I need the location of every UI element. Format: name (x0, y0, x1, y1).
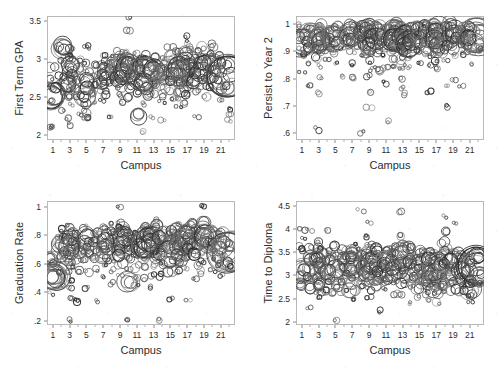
x-axis-label: Campus (296, 159, 484, 171)
x-tick-mark (461, 325, 462, 327)
x-tick-mark (61, 140, 62, 142)
x-tick-label: 5 (333, 330, 338, 340)
x-tick-label: 1 (51, 330, 56, 340)
x-tick-mark (469, 325, 470, 328)
x-tick-mark (335, 325, 336, 328)
x-tick-mark (145, 325, 146, 327)
x-tick-label: 19 (448, 145, 457, 155)
panel-first-term-gpa: 22.533.513579111315171921CampusFirst Ter… (0, 0, 249, 185)
x-tick-mark (352, 140, 353, 143)
x-tick-label: 15 (415, 330, 424, 340)
x-tick-mark (170, 140, 171, 143)
x-tick-mark (203, 140, 204, 143)
bubble-layer (47, 201, 235, 325)
x-tick-mark (86, 140, 87, 143)
x-tick-mark (78, 140, 79, 142)
x-tick-mark (86, 325, 87, 328)
x-tick-label: 9 (367, 330, 372, 340)
x-tick-label: 17 (182, 330, 191, 340)
x-tick-mark (111, 325, 112, 327)
x-tick-mark (187, 140, 188, 143)
y-tick-mark (44, 206, 47, 207)
x-tick-label: 11 (132, 330, 141, 340)
x-tick-mark (419, 325, 420, 328)
x-tick-label: 5 (84, 330, 89, 340)
x-axis-label: Campus (47, 344, 235, 356)
x-tick-mark (452, 325, 453, 328)
plot-area (47, 16, 235, 140)
x-tick-mark (394, 325, 395, 327)
x-tick-mark (170, 325, 171, 328)
x-tick-mark (310, 325, 311, 327)
x-tick-mark (195, 325, 196, 327)
x-tick-mark (461, 140, 462, 142)
plot-area (47, 201, 235, 325)
x-tick-label: 15 (166, 330, 175, 340)
x-tick-mark (78, 325, 79, 327)
x-tick-label: 13 (149, 330, 158, 340)
x-tick-mark (335, 140, 336, 143)
plot-area (296, 16, 484, 140)
y-tick-mark (44, 320, 47, 321)
y-axis-label: First Term GPA (13, 16, 25, 140)
y-tick-mark (293, 228, 296, 229)
y-tick-mark (44, 263, 47, 264)
x-tick-label: 1 (300, 330, 305, 340)
x-tick-mark (377, 140, 378, 142)
y-tick-mark (293, 275, 296, 276)
y-tick-mark (44, 59, 47, 60)
y-tick-mark (44, 235, 47, 236)
y-tick-mark (44, 96, 47, 97)
x-tick-mark (369, 325, 370, 328)
x-tick-mark (478, 140, 479, 142)
x-tick-mark (229, 325, 230, 327)
x-tick-mark (318, 140, 319, 143)
y-tick-mark (44, 21, 47, 22)
x-tick-mark (410, 140, 411, 142)
x-tick-mark (436, 325, 437, 328)
x-tick-mark (419, 140, 420, 143)
x-tick-label: 1 (300, 145, 305, 155)
x-tick-mark (220, 140, 221, 143)
y-tick-mark (293, 298, 296, 299)
x-tick-mark (145, 140, 146, 142)
x-tick-mark (178, 325, 179, 327)
y-axis-label: Persist to Year 2 (262, 16, 274, 140)
x-tick-mark (436, 140, 437, 143)
x-tick-mark (52, 140, 53, 143)
x-tick-mark (111, 140, 112, 142)
x-tick-mark (444, 140, 445, 142)
x-tick-label: 19 (199, 145, 208, 155)
x-tick-mark (410, 325, 411, 327)
x-tick-label: 17 (182, 145, 191, 155)
x-tick-label: 7 (101, 145, 106, 155)
x-tick-mark (203, 325, 204, 328)
x-tick-label: 21 (216, 145, 225, 155)
x-tick-label: 7 (101, 330, 106, 340)
x-tick-mark (128, 325, 129, 327)
x-tick-mark (478, 325, 479, 327)
x-tick-mark (103, 325, 104, 328)
x-tick-mark (178, 140, 179, 142)
x-tick-mark (444, 325, 445, 327)
x-tick-label: 21 (465, 145, 474, 155)
x-tick-mark (360, 140, 361, 142)
x-tick-mark (469, 140, 470, 143)
x-tick-mark (327, 325, 328, 327)
x-tick-mark (452, 140, 453, 143)
y-tick-mark (293, 205, 296, 206)
x-tick-label: 13 (398, 145, 407, 155)
y-tick-mark (293, 133, 296, 134)
x-tick-mark (394, 140, 395, 142)
x-tick-label: 5 (84, 145, 89, 155)
x-tick-label: 7 (350, 145, 355, 155)
y-axis-label: Time to Diploma (262, 201, 274, 325)
x-tick-mark (103, 140, 104, 143)
bubble-layer (47, 16, 235, 140)
x-tick-mark (229, 140, 230, 142)
x-tick-mark (94, 140, 95, 142)
x-tick-mark (69, 140, 70, 143)
x-tick-mark (385, 325, 386, 328)
x-tick-mark (94, 325, 95, 327)
x-tick-mark (385, 140, 386, 143)
